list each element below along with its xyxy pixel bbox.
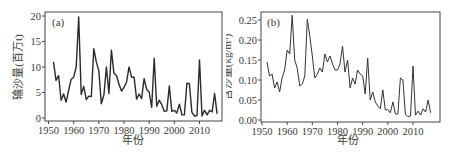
chart-b: 19501960197019801990200020100.000.050.10… [226,0,452,159]
chart-b-svg: 19501960197019801990200020100.000.050.10… [226,0,452,159]
y-tick-label: 10 [31,62,42,73]
y-tick-label: 0.20 [239,35,257,46]
y-tick-label: 0 [36,113,41,124]
y-tick-label: 0.10 [239,75,257,86]
chart-b-x-axis-label: 年份 [337,133,359,146]
x-tick-label: 2000 [164,125,185,136]
plot-frame [45,12,222,121]
chart-a: 195019601970198019902000201005101520 (a)… [0,0,226,159]
y-tick-label: 0.15 [239,55,257,66]
y-tick-label: 0.25 [239,15,257,26]
x-tick-label: 2000 [377,126,398,137]
y-tick-label: 0.00 [239,115,257,126]
x-tick-label: 2010 [189,125,210,136]
chart-a-panel-label: (a) [52,16,65,29]
y-tick-label: 15 [31,36,42,47]
chart-a-svg: 195019601970198019902000201005101520 (a)… [0,0,226,159]
x-tick-label: 1950 [38,125,59,136]
chart-a-axes: 195019601970198019902000201005101520 [31,11,223,137]
chart-a-x-axis-label: 年份 [122,133,144,146]
x-tick-label: 1970 [88,125,109,136]
chart-a-y-axis-label: 输沙量(百万t) [11,34,25,100]
chart-b-y-axis-label: 含沙量(kg/m³) [226,34,234,101]
x-tick-label: 1950 [252,126,273,137]
chart-a-series-line [54,17,218,116]
chart-b-panel-label: (b) [267,16,280,29]
x-tick-label: 1960 [277,126,298,137]
y-tick-label: 0.05 [239,95,257,106]
y-tick-label: 20 [31,11,42,22]
y-tick-label: 5 [36,87,41,98]
x-tick-label: 2010 [403,126,424,137]
x-tick-label: 1970 [302,126,323,137]
x-tick-label: 1960 [63,125,84,136]
chart-b-series-line [267,15,431,117]
